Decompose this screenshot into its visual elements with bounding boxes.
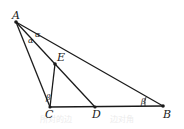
label-A: A (11, 9, 20, 22)
segment-CB (50, 106, 163, 107)
geometry-diagram: 所对的边 边对角 A B C D E α α β β (0, 0, 184, 129)
segment-CE (50, 64, 55, 107)
background-text: 边对角 (110, 114, 134, 124)
angle-label-CAE: α (28, 36, 34, 45)
angle-label-ACE: β (45, 93, 51, 102)
segment-AE (16, 22, 55, 64)
angle-label-EAB: α (35, 30, 41, 39)
label-E: E (56, 51, 65, 64)
segment-AC (16, 22, 50, 107)
label-C: C (45, 108, 54, 121)
label-D: D (91, 108, 101, 121)
segment-ED (55, 64, 95, 107)
label-B: B (162, 108, 171, 121)
